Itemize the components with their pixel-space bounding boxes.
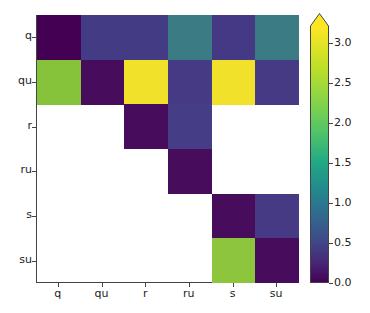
colorbar-tick-label: 1.5 bbox=[334, 157, 352, 169]
x-tick-label: r bbox=[123, 288, 167, 300]
x-tick-label: qu bbox=[80, 288, 124, 300]
x-tick-mark bbox=[58, 283, 59, 287]
heatmap-cell-q-r bbox=[124, 15, 168, 60]
colorbar-tick-mark bbox=[329, 283, 333, 284]
colorbar bbox=[310, 27, 329, 283]
heatmap-cell-r-ru bbox=[168, 104, 212, 149]
heatmap-cell-su-su bbox=[255, 238, 299, 283]
heatmap-cell-q-qu bbox=[81, 15, 125, 60]
colorbar-tick-mark bbox=[329, 43, 333, 44]
heatmap-cell-qu-ru bbox=[168, 60, 212, 105]
y-tick-mark bbox=[32, 171, 36, 172]
y-tick-label: q bbox=[25, 30, 32, 42]
x-tick-mark bbox=[145, 283, 146, 287]
colorbar-extend-arrow bbox=[310, 13, 329, 28]
colorbar-tick-label: 1.0 bbox=[334, 197, 352, 209]
colorbar-tick-mark bbox=[329, 123, 333, 124]
y-tick-label: su bbox=[19, 254, 32, 266]
y-tick-label: ru bbox=[21, 164, 33, 176]
heatmap-cell-r-r bbox=[124, 104, 168, 149]
x-tick-mark bbox=[233, 283, 234, 287]
y-tick-mark bbox=[32, 82, 36, 83]
y-tick-mark bbox=[32, 261, 36, 262]
heatmap-cell-s-su bbox=[255, 194, 299, 239]
x-tick-mark bbox=[276, 283, 277, 287]
y-tick-label: qu bbox=[18, 75, 32, 87]
heatmap-cell-qu-qu bbox=[81, 60, 125, 105]
colorbar-tick-label: 0.5 bbox=[334, 237, 352, 249]
heatmap-cell-q-su bbox=[255, 15, 299, 60]
heatmap-cell-q-q bbox=[37, 15, 81, 60]
colorbar-tick-mark bbox=[329, 203, 333, 204]
heatmap-cell-ru-ru bbox=[168, 149, 212, 194]
colorbar-tick-label: 3.0 bbox=[334, 37, 352, 49]
y-tick-mark bbox=[32, 216, 36, 217]
y-tick-mark bbox=[32, 127, 36, 128]
heatmap-cell-q-ru bbox=[168, 15, 212, 60]
x-tick-mark bbox=[102, 283, 103, 287]
y-tick-label: r bbox=[27, 120, 32, 132]
y-tick-label: s bbox=[26, 209, 32, 221]
heatmap-cell-qu-q bbox=[37, 60, 81, 105]
colorbar-tick-mark bbox=[329, 83, 333, 84]
colorbar-tick-mark bbox=[329, 243, 333, 244]
x-tick-label: q bbox=[36, 288, 80, 300]
x-tick-mark bbox=[189, 283, 190, 287]
heatmap-cell-qu-r bbox=[124, 60, 168, 105]
x-tick-label: s bbox=[211, 288, 255, 300]
x-tick-label: su bbox=[254, 288, 298, 300]
y-tick-mark bbox=[32, 37, 36, 38]
heatmap-cell-s-s bbox=[212, 194, 256, 239]
heatmap-cell-qu-su bbox=[255, 60, 299, 105]
x-tick-label: ru bbox=[167, 288, 211, 300]
heatmap-plot-area bbox=[36, 15, 298, 283]
colorbar-tick-mark bbox=[329, 163, 333, 164]
colorbar-tick-label: 0.0 bbox=[334, 277, 352, 289]
colorbar-tick-label: 2.0 bbox=[334, 117, 352, 129]
heatmap-cell-su-s bbox=[212, 238, 256, 283]
heatmap-cell-qu-s bbox=[212, 60, 256, 105]
heatmap-cell-q-s bbox=[212, 15, 256, 60]
heatmap-figure: qqurrussu qqurrussu 0.00.51.01.52.02.53.… bbox=[0, 0, 370, 313]
colorbar-tick-label: 2.5 bbox=[334, 77, 352, 89]
